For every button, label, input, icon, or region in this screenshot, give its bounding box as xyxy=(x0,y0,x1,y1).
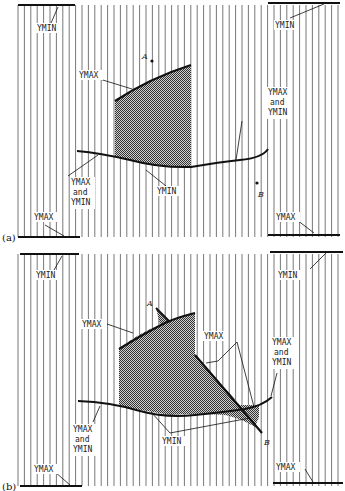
point-a-marker xyxy=(150,59,153,62)
label-a-right-both-1: YMAX xyxy=(268,88,287,97)
label-b-lower-ymin: YMIN xyxy=(162,437,181,446)
label-b-point-b: B xyxy=(263,438,270,447)
label-a-left-top: YMIN xyxy=(37,24,56,33)
label-a-left-bottom: YMAX xyxy=(34,213,53,222)
label-a-right-both-2: and xyxy=(270,98,285,107)
label-a-lower-ymin: YMIN xyxy=(157,187,176,196)
label-b-left-both-2: and xyxy=(75,435,90,444)
label-b-upper-ymax: YMAX xyxy=(82,320,101,329)
label-a-point-b: B xyxy=(257,190,264,199)
label-a-left-both-2: and xyxy=(73,188,88,197)
label-a-point-a: A xyxy=(141,52,148,61)
label-a-right-top: YMIN xyxy=(275,21,294,30)
label-b-left-bottom: YMAX xyxy=(34,465,53,474)
point-b-marker xyxy=(255,181,258,184)
label-b-left-top: YMIN xyxy=(36,271,55,280)
label-b-left-both-1: YMAX xyxy=(73,425,92,434)
label-a-right-bottom: YMAX xyxy=(276,213,295,222)
label-b-right-both-1: YMAX xyxy=(272,338,291,347)
label-a-upper-ymax: YMAX xyxy=(79,71,98,80)
label-a-left-both-3: YMIN xyxy=(71,198,90,207)
label-a-right-both-3: YMIN xyxy=(268,108,287,117)
panel-b: YMIN YMAX YMIN YMAX YMAX YMAX YMIN YMAX … xyxy=(2,252,343,491)
label-b-point-a: A xyxy=(146,299,153,308)
label-b-right-both-2: and xyxy=(274,348,289,357)
label-b-right-both-3: YMIN xyxy=(272,358,291,367)
label-b-right-bottom: YMAX xyxy=(276,463,295,472)
label-b-left-both-3: YMIN xyxy=(73,445,92,454)
label-a-left-both-1: YMAX xyxy=(71,178,90,187)
panel-label-b: (b) xyxy=(2,481,16,491)
panel-a: YMIN YMAX YMIN YMAX YMAX YMIN YMAX and Y… xyxy=(2,3,340,243)
label-b-right-top: YMIN xyxy=(278,271,297,280)
scanline-diagram: YMIN YMAX YMIN YMAX YMAX YMIN YMAX and Y… xyxy=(0,0,345,491)
label-b-diag-ymax: YMAX xyxy=(204,332,223,341)
panel-label-a: (a) xyxy=(2,232,16,243)
